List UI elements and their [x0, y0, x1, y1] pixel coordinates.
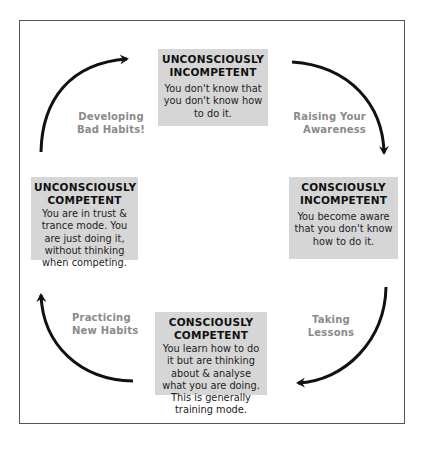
transition-label-taking-lessons: Taking Lessons — [306, 313, 356, 339]
label-line: Taking — [306, 313, 356, 326]
label-line: Raising Your — [286, 110, 366, 123]
stage-description: You learn how to do it but are thinking … — [158, 343, 264, 417]
stage-consciously-incompetent: CONSCIOUSLY INCOMPETENT You become aware… — [289, 177, 398, 259]
stage-title-line: COMPETENT — [158, 329, 264, 342]
stage-unconsciously-competent: UNCONSCIOUSLY COMPETENT You are in trust… — [31, 177, 138, 260]
stage-description: You become aware that you don't know how… — [292, 211, 395, 248]
label-line: Lessons — [306, 326, 356, 339]
stage-consciously-competent: CONSCIOUSLY COMPETENT You learn how to d… — [155, 312, 267, 395]
arrow-practicing-new-habits — [41, 295, 133, 381]
stage-title: CONSCIOUSLY COMPETENT — [158, 316, 264, 341]
label-line: Practicing — [72, 311, 140, 324]
stage-title: UNCONSCIOUSLY INCOMPETENT — [161, 53, 265, 78]
stage-title-line: INCOMPETENT — [161, 66, 265, 79]
stage-title-line: INCOMPETENT — [292, 194, 395, 207]
transition-label-practicing-new-habits: Practicing New Habits — [72, 311, 140, 337]
stage-title-line: CONSCIOUSLY — [292, 181, 395, 194]
stage-description: You are in trust & trance mode. You are … — [34, 208, 135, 269]
label-line: Developing — [73, 110, 149, 123]
arrow-raising-awareness — [292, 62, 384, 153]
transition-label-raising-awareness: Raising Your Awareness — [286, 110, 366, 136]
stage-unconsciously-incompetent: UNCONSCIOUSLY INCOMPETENT You don't know… — [158, 49, 268, 126]
stage-title-line: UNCONSCIOUSLY — [34, 181, 135, 194]
stage-title: UNCONSCIOUSLY COMPETENT — [34, 181, 135, 206]
label-line: Awareness — [286, 123, 366, 136]
transition-label-developing-bad-habits: Developing Bad Habits! — [73, 110, 149, 136]
stage-title-line: CONSCIOUSLY — [158, 316, 264, 329]
stage-title: CONSCIOUSLY INCOMPETENT — [292, 181, 395, 206]
stage-title-line: COMPETENT — [34, 194, 135, 207]
label-line: New Habits — [72, 324, 140, 337]
label-line: Bad Habits! — [73, 123, 149, 136]
stage-title-line: UNCONSCIOUSLY — [161, 53, 265, 66]
stage-description: You don't know that you don't know how t… — [161, 83, 265, 120]
arrow-developing-bad-habits — [41, 59, 127, 152]
